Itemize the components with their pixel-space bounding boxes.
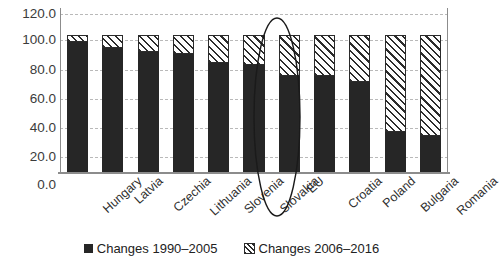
- bar-segment-early: [138, 52, 159, 172]
- y-tick-label: 40.0: [4, 121, 56, 135]
- bar-segment-early: [420, 136, 441, 172]
- legend-item-changes-1990-2005[interactable]: Changes 1990–2005: [84, 241, 218, 256]
- bar-segment-late: [173, 35, 194, 54]
- bar-czechia[interactable]: [138, 8, 159, 172]
- legend-item-changes-2006-2016[interactable]: Changes 2006–2016: [244, 241, 380, 256]
- bar-segment-early: [208, 63, 229, 172]
- bar-segment-early: [173, 54, 194, 172]
- bar-latvia[interactable]: [102, 8, 123, 172]
- y-tick-label: 120.0: [4, 7, 56, 21]
- y-tick-label: 60.0: [4, 92, 56, 106]
- bar-segment-late: [243, 35, 264, 65]
- bar-segment-late: [102, 35, 123, 47]
- bar-segment-late: [385, 35, 406, 132]
- x-tick-label-poland: Poland: [380, 174, 418, 210]
- legend-swatch-hatched-icon: [244, 243, 255, 254]
- bar-romania[interactable]: [420, 8, 441, 172]
- legend-label: Changes 1990–2005: [97, 241, 218, 256]
- x-tick-label-croatia: Croatia: [345, 174, 384, 211]
- bar-hungary[interactable]: [67, 8, 88, 172]
- x-tick-label-romania: Romania: [454, 174, 500, 218]
- bar-segment-early: [243, 65, 264, 172]
- bar-segment-late: [138, 35, 159, 51]
- bar-bulgaria[interactable]: [385, 8, 406, 172]
- y-tick-label: 100.0: [4, 33, 56, 47]
- bar-segment-early: [279, 76, 300, 172]
- bar-segment-late: [314, 35, 335, 76]
- bar-segment-late: [420, 35, 441, 136]
- bar-group: [60, 8, 448, 172]
- legend-swatch-solid-icon: [84, 244, 93, 253]
- bar-croatia[interactable]: [314, 8, 335, 172]
- y-axis: 120.0 100.0 80.0 60.0 40.0 20.0 0.0: [0, 0, 56, 272]
- bar-segment-early: [349, 82, 370, 172]
- bar-segment-early: [102, 48, 123, 172]
- x-axis: HungaryLatviaCzechiaLithuaniaSloveniaSlo…: [60, 174, 448, 228]
- plot-area: [60, 8, 448, 172]
- legend-label: Changes 2006–2016: [259, 241, 380, 256]
- bar-segment-late: [349, 35, 370, 81]
- legend: Changes 1990–2005 Changes 2006–2016: [0, 241, 463, 256]
- bar-slovenia[interactable]: [208, 8, 229, 172]
- bar-segment-late: [67, 35, 88, 42]
- y-tick-label: 0.0: [4, 178, 56, 192]
- bar-segment-early: [385, 132, 406, 172]
- y-tick-label: 80.0: [4, 63, 56, 77]
- bar-slovakia[interactable]: [243, 8, 264, 172]
- bar-lithuania[interactable]: [173, 8, 194, 172]
- bar-segment-late: [279, 35, 300, 76]
- bar-eu[interactable]: [279, 8, 300, 172]
- bar-poland[interactable]: [349, 8, 370, 172]
- bar-segment-late: [208, 35, 229, 62]
- y-tick-label: 20.0: [4, 150, 56, 164]
- bar-segment-early: [314, 76, 335, 172]
- bar-segment-early: [67, 42, 88, 172]
